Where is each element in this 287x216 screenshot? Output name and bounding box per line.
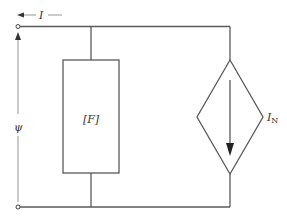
element-F-branch: [F]: [63, 27, 119, 208]
voltage-label: ψ: [14, 121, 23, 134]
source-label: IN: [266, 111, 278, 125]
current-source-branch: IN: [197, 27, 278, 208]
source-arrow-down-icon: [226, 143, 234, 156]
voltage-indicator: ψ: [14, 32, 23, 202]
current-label: I: [38, 9, 44, 22]
terminal-top: [16, 25, 20, 29]
current-arrow-left-icon: [17, 13, 24, 18]
terminal-bottom: [16, 205, 20, 209]
voltage-arrow-up-icon: [15, 32, 21, 40]
current-indicator: I: [17, 9, 62, 22]
circuit-diagram: I ψ [F] IN: [0, 0, 287, 216]
element-F-label: [F]: [83, 113, 100, 126]
